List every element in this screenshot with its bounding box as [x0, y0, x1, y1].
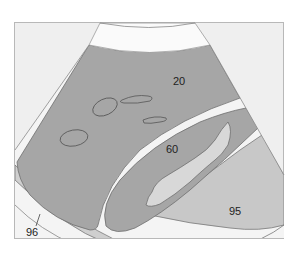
label-60: 60 — [166, 143, 178, 155]
label-20: 20 — [173, 75, 185, 87]
diagram-canvas: 20 60 95 96 — [0, 0, 299, 263]
label-96: 96 — [26, 226, 38, 238]
label-95: 95 — [229, 205, 241, 217]
ultrasound-diagram: 20 60 95 96 — [0, 0, 299, 263]
